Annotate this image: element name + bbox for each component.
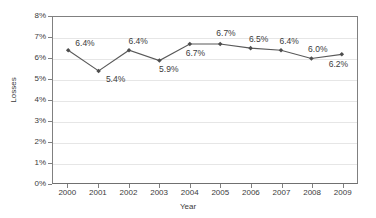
data-point-marker: [218, 42, 223, 47]
x-axis-title: Year: [0, 203, 376, 211]
x-tick-mark: [282, 184, 283, 188]
x-tick-mark: [343, 184, 344, 188]
x-tick-mark: [98, 184, 99, 188]
y-tick-label: 5%: [0, 75, 46, 83]
x-tick-mark: [190, 184, 191, 188]
data-point-label: 6.4%: [280, 37, 299, 46]
data-point-marker: [157, 58, 162, 63]
data-point-marker: [309, 56, 314, 61]
y-tick-label: 8%: [0, 12, 46, 20]
data-point-label: 6.4%: [129, 37, 148, 46]
y-tick-label: 7%: [0, 33, 46, 41]
data-point-marker: [340, 52, 345, 57]
x-tick-mark: [220, 184, 221, 188]
x-tick-mark: [251, 184, 252, 188]
data-point-label: 6.5%: [249, 35, 268, 44]
data-point-marker: [188, 42, 193, 47]
y-tick-label: 1%: [0, 159, 46, 167]
y-axis-title: Losses: [10, 60, 18, 120]
x-tick-mark: [159, 184, 160, 188]
y-tick-label: 2%: [0, 138, 46, 146]
y-tick-label: 3%: [0, 117, 46, 125]
data-point-label: 6.2%: [329, 60, 348, 69]
y-tick-label: 6%: [0, 54, 46, 62]
data-point-label: 6.7%: [216, 29, 235, 38]
data-point-label: 6.0%: [308, 45, 327, 54]
x-tick-mark: [67, 184, 68, 188]
series-line: [53, 17, 357, 183]
x-tick-mark: [312, 184, 313, 188]
data-point-label: 5.9%: [159, 65, 178, 74]
data-point-label: 6.4%: [75, 39, 94, 48]
y-tick-mark: [48, 184, 52, 185]
x-tick-label: 2009: [323, 189, 363, 197]
y-tick-label: 0%: [0, 180, 46, 188]
data-point-label: 5.4%: [106, 75, 125, 84]
line-chart: 0%1%2%3%4%5%6%7%8% Losses 6.4%5.4%6.4%5.…: [0, 0, 376, 218]
plot-area: [52, 16, 358, 184]
x-tick-mark: [129, 184, 130, 188]
y-tick-label: 4%: [0, 96, 46, 104]
data-point-marker: [248, 46, 253, 51]
data-point-marker: [279, 48, 284, 53]
data-point-label: 6.7%: [186, 49, 205, 58]
